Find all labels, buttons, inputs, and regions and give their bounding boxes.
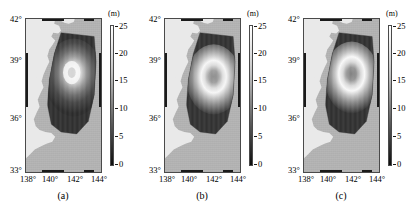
panel-b: 42° 39° 36° 33° 138° 140° 142° 144° (b) … bbox=[139, 0, 278, 214]
tick-right-39 bbox=[238, 53, 240, 107]
xtick-label-142: 142° bbox=[345, 175, 361, 184]
colorbar-label-0-a: 0 bbox=[119, 159, 123, 169]
tick-bottom-140 bbox=[181, 170, 203, 172]
tick-bottom-140 bbox=[42, 170, 64, 172]
tick-top-142 bbox=[223, 19, 233, 21]
slip-distribution-patch-c bbox=[304, 19, 379, 170]
map-plot-area-b bbox=[164, 18, 241, 173]
colorbar-gradient-b bbox=[249, 25, 253, 166]
ytick-label-42: 42° bbox=[149, 15, 161, 24]
ytick-label-42: 42° bbox=[10, 15, 22, 24]
tick-right-39 bbox=[377, 53, 379, 107]
tick-top-140 bbox=[181, 19, 203, 21]
map-plot-area-a bbox=[25, 18, 102, 173]
xtick-label-140: 140° bbox=[42, 175, 58, 184]
colorbar-label-15-a: 15 bbox=[119, 75, 128, 85]
colorbar-label-15-b: 15 bbox=[258, 75, 267, 85]
colorbar-label-0-c: 0 bbox=[397, 159, 401, 169]
tick-bottom-142 bbox=[223, 170, 233, 172]
tick-left-39 bbox=[165, 53, 167, 107]
xtick-label-140: 140° bbox=[320, 175, 336, 184]
tick-top-140 bbox=[320, 19, 342, 21]
slip-distribution-patch-b bbox=[165, 19, 240, 170]
tick-top-142 bbox=[84, 19, 94, 21]
colorbar-label-25-b: 25 bbox=[258, 21, 267, 31]
xtick-label-142: 142° bbox=[67, 175, 83, 184]
tick-left-39 bbox=[304, 53, 306, 107]
panel-caption-a: (a) bbox=[57, 190, 68, 201]
colorbar-label-10-c: 10 bbox=[397, 103, 406, 113]
colorbar-label-10-b: 10 bbox=[258, 103, 267, 113]
tick-bottom-142 bbox=[84, 170, 94, 172]
panel-c: 42° 39° 36° 33° 138° 140° 142° 144° (c) … bbox=[278, 0, 417, 214]
xtick-label-142: 142° bbox=[206, 175, 222, 184]
colorbar-gradient-a bbox=[110, 25, 114, 166]
tick-right-39 bbox=[99, 53, 101, 107]
colorbar-label-20-c: 20 bbox=[397, 48, 406, 58]
colorbar-c: (m) 25 20 15 10 5 0 bbox=[388, 18, 416, 173]
ytick-label-33: 33° bbox=[149, 166, 161, 175]
colorbar-gradient-c bbox=[388, 25, 392, 166]
ytick-label-36: 36° bbox=[288, 114, 300, 123]
tick-top-140 bbox=[42, 19, 64, 21]
slip-distribution-patch-a bbox=[26, 19, 101, 170]
ytick-label-33: 33° bbox=[10, 166, 22, 175]
xtick-label-144: 144° bbox=[91, 175, 107, 184]
panel-caption-b: (b) bbox=[196, 190, 208, 201]
xtick-label-138: 138° bbox=[298, 175, 314, 184]
figure-three-panel-slip-maps: 42° 39° 36° 33° 138° 140° 142° 144° (a) … bbox=[0, 0, 417, 214]
colorbar-unit-a: (m) bbox=[108, 9, 120, 18]
colorbar-label-25-c: 25 bbox=[397, 21, 406, 31]
xtick-label-144: 144° bbox=[369, 175, 385, 184]
ytick-label-42: 42° bbox=[288, 15, 300, 24]
colorbar-label-0-b: 0 bbox=[258, 159, 262, 169]
colorbar-label-10-a: 10 bbox=[119, 103, 128, 113]
tick-left-39 bbox=[26, 53, 28, 107]
colorbar-label-20-a: 20 bbox=[119, 48, 128, 58]
ytick-label-36: 36° bbox=[149, 114, 161, 123]
colorbar-unit-c: (m) bbox=[386, 9, 398, 18]
tick-bottom-140 bbox=[320, 170, 342, 172]
colorbar-label-5-c: 5 bbox=[397, 131, 401, 141]
colorbar-label-5-b: 5 bbox=[258, 131, 262, 141]
ytick-label-36: 36° bbox=[10, 114, 22, 123]
map-plot-area-c bbox=[303, 18, 380, 173]
colorbar-unit-b: (m) bbox=[247, 9, 259, 18]
ytick-label-39: 39° bbox=[149, 56, 161, 65]
ytick-label-33: 33° bbox=[288, 166, 300, 175]
xtick-label-138: 138° bbox=[159, 175, 175, 184]
panel-a: 42° 39° 36° 33° 138° 140° 142° 144° (a) … bbox=[0, 0, 139, 214]
tick-top-142 bbox=[362, 19, 372, 21]
xtick-label-144: 144° bbox=[230, 175, 246, 184]
colorbar-label-25-a: 25 bbox=[119, 21, 128, 31]
colorbar-label-20-b: 20 bbox=[258, 48, 267, 58]
colorbar-a: (m) 25 20 15 10 5 0 bbox=[110, 18, 138, 173]
colorbar-b: (m) 25 20 15 10 5 0 bbox=[249, 18, 277, 173]
ytick-label-39: 39° bbox=[288, 56, 300, 65]
colorbar-label-5-a: 5 bbox=[119, 131, 123, 141]
panel-caption-c: (c) bbox=[335, 190, 346, 201]
xtick-label-140: 140° bbox=[181, 175, 197, 184]
xtick-label-138: 138° bbox=[20, 175, 36, 184]
colorbar-label-15-c: 15 bbox=[397, 75, 406, 85]
tick-bottom-142 bbox=[362, 170, 372, 172]
ytick-label-39: 39° bbox=[10, 56, 22, 65]
